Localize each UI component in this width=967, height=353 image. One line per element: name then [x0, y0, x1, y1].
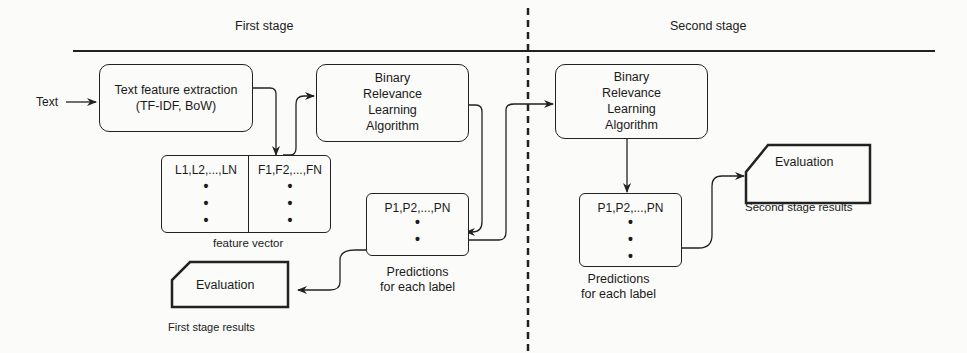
br1-line4: Algorithm [317, 118, 468, 134]
br2-line3: Learning [556, 101, 707, 117]
predictions-first-dots: •• [367, 214, 468, 248]
binary-relevance-box-second: Binary Relevance Learning Algorithm [555, 64, 708, 139]
text-feature-extraction-box: Text feature extraction (TF-IDF, BoW) [99, 64, 253, 132]
evaluation-second-caption: Second stage results [745, 200, 852, 215]
predictions-second-caption: Predictions for each label [581, 272, 656, 302]
predictions-box-first: P1,P2,...,PN •• [366, 193, 469, 256]
br2-line1: Binary [556, 69, 707, 85]
evaluation-first-label: Evaluation [196, 278, 254, 293]
second-stage-label: Second stage [670, 19, 746, 34]
predictions-first-caption: Predictions for each label [380, 265, 455, 295]
br2-line4: Algorithm [556, 117, 707, 133]
extraction-line1: Text feature extraction [100, 82, 252, 98]
br1-line2: Relevance [317, 86, 468, 102]
br2-line2: Relevance [556, 85, 707, 101]
features-dots: ••• [249, 178, 331, 229]
features-column: F1,F2,...,FN [249, 162, 331, 178]
evaluation-first-caption: First stage results [168, 320, 255, 335]
predictions-box-second: P1,P2,...,PN ••• [579, 193, 682, 267]
br1-line1: Binary [317, 70, 468, 86]
predictions-second-dots: ••• [580, 214, 681, 265]
extraction-line2: (TF-IDF, BoW) [100, 98, 252, 114]
evaluation-second-shape [746, 145, 870, 203]
br1-line3: Learning [317, 102, 468, 118]
feature-vector-caption: feature vector [213, 236, 283, 251]
feature-vector-box: L1,L2,...,LN F1,F2,...,FN ••• ••• [161, 155, 331, 233]
connector-layer [0, 0, 967, 353]
first-stage-label: First stage [235, 19, 293, 34]
labels-column: L1,L2,...,LN [164, 162, 248, 178]
labels-dots: ••• [164, 178, 248, 229]
binary-relevance-box-first: Binary Relevance Learning Algorithm [316, 64, 469, 142]
input-text-label: Text [36, 95, 58, 110]
evaluation-second-label: Evaluation [775, 155, 833, 170]
